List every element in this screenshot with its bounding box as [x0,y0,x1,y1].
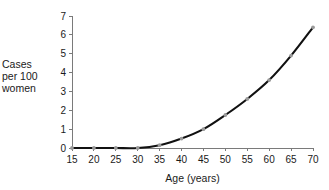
data-point-marker [245,97,249,101]
x-tick-label: 70 [307,154,319,165]
x-tick-label: 25 [110,154,122,165]
data-markers [70,25,315,149]
x-tick-label: 45 [198,154,210,165]
x-tick-label: 50 [220,154,232,165]
y-tick-label: 3 [60,86,66,97]
series-line [72,27,313,148]
data-point-marker [114,146,118,150]
x-tick-label: 60 [264,154,276,165]
x-tick-label: 20 [88,154,100,165]
x-tick-label: 15 [66,154,78,165]
data-point-marker [70,146,74,150]
y-tick-label: 1 [60,124,66,135]
data-point-marker [180,137,184,141]
x-tick-label: 65 [286,154,298,165]
x-tick-label: 35 [154,154,166,165]
y-tick-label: 0 [60,143,66,154]
y-tick-label: 7 [60,11,66,22]
y-axis-ticks: 01234567 [60,11,72,154]
data-point-marker [158,143,162,147]
y-tick-label: 5 [60,48,66,59]
data-point-marker [136,146,140,150]
x-axis-ticks: 152025303540455055606570 [66,148,319,165]
line-chart-plot: 01234567 152025303540455055606570 Age (y… [0,0,329,190]
data-point-marker [92,146,96,150]
data-point-marker [311,25,315,29]
x-tick-label: 40 [176,154,188,165]
data-point-marker [223,113,227,117]
y-tick-label: 2 [60,105,66,116]
chart-figure: Cases per 100 women 01234567 15202530354… [0,0,329,190]
x-axis-title: Age (years) [165,172,219,184]
data-point-marker [202,127,206,131]
axes [72,16,313,148]
y-tick-label: 4 [60,67,66,78]
data-point-marker [289,54,293,58]
x-tick-label: 55 [242,154,254,165]
x-tick-label: 30 [132,154,144,165]
data-point-marker [267,78,271,82]
y-tick-label: 6 [60,29,66,40]
data-series [72,27,313,148]
